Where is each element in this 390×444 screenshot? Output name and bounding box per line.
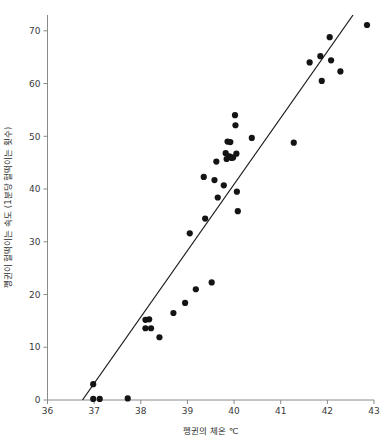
data-point	[232, 122, 238, 128]
x-axis-ticks: 3637383940414243	[42, 400, 380, 416]
data-point	[187, 230, 193, 236]
data-point	[202, 215, 208, 221]
data-point	[125, 395, 131, 401]
plot-canvas: 010203040506070 3637383940414243 펭귄의 체온 …	[0, 0, 390, 444]
regression-line	[82, 15, 353, 400]
data-point	[337, 68, 343, 74]
y-tick-label: 70	[29, 26, 41, 36]
data-point	[209, 279, 215, 285]
data-point	[291, 140, 297, 146]
data-point	[182, 300, 188, 306]
x-tick-label: 43	[368, 406, 379, 416]
data-point	[215, 194, 221, 200]
data-point	[170, 310, 176, 316]
data-point	[235, 208, 241, 214]
data-point	[142, 325, 148, 331]
data-point	[90, 381, 96, 387]
data-point	[232, 112, 238, 118]
x-tick-label: 36	[42, 406, 54, 416]
x-axis-title: 펭귄의 체온 ℃	[183, 426, 238, 436]
data-point	[146, 316, 152, 322]
data-point	[156, 334, 162, 340]
x-tick-label: 38	[135, 406, 147, 416]
x-tick-label: 39	[182, 406, 194, 416]
data-point	[249, 135, 255, 141]
data-point	[193, 286, 199, 292]
data-point	[234, 189, 240, 195]
y-axis-ticks: 010203040506070	[29, 26, 47, 405]
data-point	[211, 177, 217, 183]
x-tick-label: 37	[88, 406, 99, 416]
y-tick-label: 30	[29, 237, 41, 247]
y-tick-label: 0	[35, 395, 41, 405]
y-tick-label: 40	[29, 184, 41, 194]
y-tick-label: 10	[29, 342, 41, 352]
data-point	[97, 396, 103, 402]
data-point	[90, 396, 96, 402]
data-points	[90, 22, 370, 402]
x-tick-label: 40	[228, 406, 240, 416]
data-point	[221, 182, 227, 188]
data-point	[328, 57, 334, 63]
data-point	[227, 139, 233, 145]
data-point	[317, 53, 323, 59]
y-axis-title: 펭귄이 헐떡이는 속도 (1분당 헐떡이는 횟수)	[3, 127, 13, 289]
data-point	[364, 22, 370, 28]
y-tick-label: 50	[29, 132, 41, 142]
data-point	[307, 59, 313, 65]
y-tick-label: 20	[29, 290, 41, 300]
x-tick-label: 42	[322, 406, 333, 416]
fit-line	[82, 15, 353, 400]
y-tick-label: 60	[29, 79, 41, 89]
data-point	[148, 325, 154, 331]
x-tick-label: 41	[275, 406, 286, 416]
scatter-plot-figure: 010203040506070 3637383940414243 펭귄의 체온 …	[0, 0, 390, 444]
data-point	[319, 78, 325, 84]
data-point	[327, 34, 333, 40]
axes-group	[48, 15, 375, 400]
data-point	[201, 174, 207, 180]
data-point	[233, 151, 239, 157]
data-point	[213, 159, 219, 165]
